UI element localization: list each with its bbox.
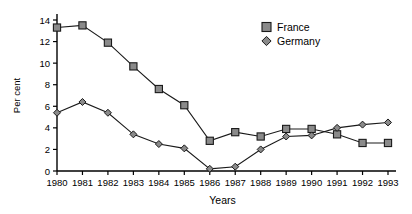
x-tick-label: 1992 xyxy=(352,177,373,188)
y-axis-title: Per cent xyxy=(11,77,22,113)
x-tick-label: 1981 xyxy=(72,177,93,188)
x-tick-label: 1980 xyxy=(46,177,67,188)
data-point-marker xyxy=(206,137,213,144)
x-tick-label: 1987 xyxy=(225,177,246,188)
legend-marker-square xyxy=(262,23,271,32)
x-tick-label: 1984 xyxy=(148,177,169,188)
data-point-marker xyxy=(130,63,137,70)
x-tick-label: 1986 xyxy=(199,177,220,188)
legend-label: France xyxy=(277,21,310,33)
x-tick-label: 1991 xyxy=(327,177,348,188)
x-axis-title: Years xyxy=(209,194,235,206)
data-point-marker xyxy=(384,139,391,146)
data-point-marker xyxy=(232,163,239,170)
line-chart: 0246810121419801981198219831984198519861… xyxy=(0,0,412,214)
x-tick-label: 1989 xyxy=(276,177,297,188)
data-point-marker xyxy=(79,22,86,29)
data-point-marker xyxy=(257,146,264,153)
y-tick-label: 14 xyxy=(39,15,50,26)
y-tick-label: 8 xyxy=(45,79,50,90)
x-tick-label: 1982 xyxy=(97,177,118,188)
x-tick-label: 1983 xyxy=(123,177,144,188)
data-point-marker xyxy=(283,125,290,132)
legend-marker-diamond xyxy=(262,36,271,45)
data-point-marker xyxy=(385,119,392,126)
data-point-marker xyxy=(53,24,60,31)
y-tick-label: 10 xyxy=(39,58,50,69)
y-tick-label: 12 xyxy=(39,36,50,47)
data-point-marker xyxy=(257,133,264,140)
data-point-marker xyxy=(232,129,239,136)
data-point-marker xyxy=(79,98,86,105)
data-point-marker xyxy=(104,39,111,46)
data-point-marker xyxy=(359,139,366,146)
data-point-marker xyxy=(155,85,162,92)
x-tick-label: 1993 xyxy=(377,177,398,188)
x-tick-label: 1988 xyxy=(250,177,271,188)
data-point-marker xyxy=(283,133,290,140)
y-tick-label: 4 xyxy=(45,122,50,133)
x-tick-label: 1990 xyxy=(301,177,322,188)
y-tick-label: 0 xyxy=(45,166,50,177)
data-point-marker xyxy=(54,109,61,116)
data-point-marker xyxy=(359,121,366,128)
data-point-marker xyxy=(181,102,188,109)
data-point-marker xyxy=(155,141,162,148)
x-tick-label: 1985 xyxy=(174,177,195,188)
y-tick-label: 2 xyxy=(45,144,50,155)
legend: FranceGermany xyxy=(262,21,321,47)
y-tick-label: 6 xyxy=(45,101,50,112)
legend-label: Germany xyxy=(277,35,321,47)
chart-container: 0246810121419801981198219831984198519861… xyxy=(0,0,412,214)
